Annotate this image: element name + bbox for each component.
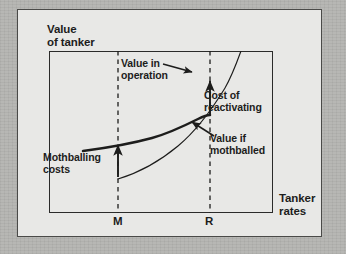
figure-inner: Value of tanker Tanker rates Value in op… <box>18 10 321 236</box>
annotation-value-in-operation: Value in operation <box>121 58 168 82</box>
x-axis-label: Tanker rates <box>279 192 315 218</box>
annotation-cost-of-reactivating: Cost of reactivating <box>204 90 262 114</box>
annotation-mothballing-costs: Mothballing costs <box>43 152 101 176</box>
annotation-value-if-mothballed: Value if mothballed <box>210 133 265 157</box>
x-tick-label-m: M <box>113 215 123 227</box>
x-tick-label-r: R <box>205 215 213 227</box>
figure-box: Value of tanker Tanker rates Value in op… <box>17 9 322 237</box>
y-axis-label: Value of tanker <box>47 23 95 49</box>
